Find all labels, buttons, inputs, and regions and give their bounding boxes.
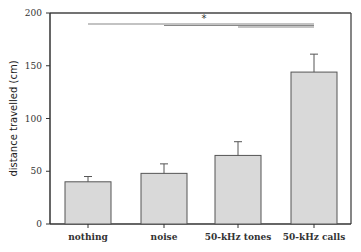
- y-tick-label: 100: [25, 114, 42, 124]
- significance-star: *: [202, 13, 207, 24]
- x-tick-label: nothing: [68, 232, 108, 242]
- y-tick-label: 0: [36, 219, 42, 229]
- bar: [291, 72, 337, 224]
- y-tick-label: 50: [31, 166, 43, 176]
- x-tick-label: 50-kHz calls: [283, 232, 345, 242]
- bar: [215, 155, 261, 224]
- x-tick-label: noise: [151, 232, 178, 242]
- x-tick-label: 50-kHz tones: [205, 232, 272, 242]
- bar: [141, 173, 187, 224]
- bar: [65, 182, 111, 224]
- y-tick-label: 200: [25, 8, 42, 18]
- y-tick-label: 150: [25, 61, 42, 71]
- y-axis-label: distance travelled (cm): [8, 60, 19, 176]
- bar-chart: 050100150200distance travelled (cm)nothi…: [0, 0, 361, 252]
